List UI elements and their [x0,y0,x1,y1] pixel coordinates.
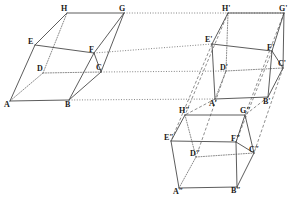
vertex-label-solid-2-D: D' [220,63,228,72]
solid-1-edge-CG [101,13,124,72]
solid-2-edge-EA [212,44,215,99]
solid-1-hidden-edge-DH [43,13,67,73]
solid-3-edge-EA [171,141,179,188]
projection-line-Eprime-to-Edprime [171,44,212,141]
solid-1-edge-FG [94,13,124,53]
solid-2-edge-HE [212,13,228,44]
vertex-label-solid-2-A: A' [209,99,217,108]
vertex-label-solid-1-D: D [37,64,43,73]
vertex-label-solid-3-A: A″ [173,187,183,196]
vertex-label-solid-1-C: C [96,63,102,72]
solid-1-edge-EA [10,45,35,101]
solid-2-hidden-edge-AD [215,71,226,99]
vertex-label-solid-3-F: F″ [231,134,240,143]
vertex-label-solid-2-C: C' [278,59,286,68]
solid-1-edge-HE [35,13,67,45]
vertex-label-solid-3-G: G″ [240,106,251,115]
vertex-label-solid-2-E: E' [205,35,213,44]
vertex-label-solid-2-F: F' [267,43,274,52]
figure-canvas: ABCDEFGHA'B'C'D'E'F'G'H'A″B″C″D″E″F″G″H″ [0,0,296,197]
vertex-label-solid-1-B: B [65,100,71,109]
solid-2-hidden-edge-DC [226,68,283,71]
solid-3-hidden-edge-DC [196,153,254,157]
geometry-diagram: ABCDEFGHA'B'C'D'E'F'G'H'A″B″C″D″E″F″G″H″ [0,0,296,197]
solid-2-edge-EF [212,44,272,51]
solid-3-edge-FB [236,142,237,187]
vertex-label-solid-3-H: H″ [179,106,190,115]
solid-3-edge-EF [171,141,236,142]
solid-3-edge-AB [179,187,237,188]
vertex-label-solid-3-E: E″ [164,133,174,142]
solid-3-hidden-edge-AD [179,157,196,188]
solid-1-edge-BC [69,72,101,100]
solid-2-edge-AB [215,97,268,99]
projection-line-Dprime-to-Ddprime [196,71,226,157]
vertex-label-solid-2-B: B' [263,97,271,106]
projection-line-C-to-Dprime [101,71,226,72]
vertex-label-solid-2-G: G' [279,4,287,13]
vertex-label-solid-1-F: F [89,45,94,54]
vertex-label-solid-3-B: B″ [231,186,241,195]
vertex-label-solid-3-C: C″ [249,145,259,154]
solid-3-edge-BC [237,153,254,187]
vertex-label-solid-1-G: G [119,4,125,13]
projection-line-B-to-Aprime [69,99,215,100]
solid-1-edge-AB [10,100,69,101]
vertex-label-solid-2-H: H' [222,4,230,13]
vertex-label-solid-1-E: E [28,37,33,46]
vertex-label-solid-1-H: H [61,4,68,13]
vertex-label-solid-1-A: A [4,100,10,109]
solid-1-hidden-edge-DC [43,72,101,73]
solid-1-edge-FB [69,53,94,100]
vertex-label-solid-3-D: D″ [190,149,200,158]
solid-1-edge-EF [35,45,94,53]
solid-1-hidden-edge-AD [10,73,43,101]
